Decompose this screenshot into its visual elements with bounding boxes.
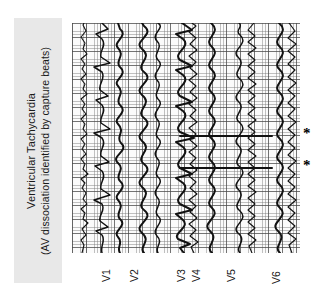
lead-label-v1: V1 <box>100 269 112 282</box>
lead-label-v2: V2 <box>128 269 140 282</box>
lead-label-v4: V4 <box>190 269 202 282</box>
trace-lead-v1-qrs <box>94 23 110 253</box>
trace-lead-v5-overlay <box>248 23 256 253</box>
caption-text-block: Ventricular Tachycardia (AV dissociation… <box>14 18 62 283</box>
trace-lead-v2 <box>139 23 147 253</box>
ecg-figure: Ventricular Tachycardia (AV dissociation… <box>0 0 328 300</box>
ecg-paper <box>72 23 300 253</box>
capture-beat-asterisk-1: * <box>303 126 311 141</box>
trace-lead-v1-main <box>116 23 123 253</box>
caption-title: Ventricular Tachycardia <box>25 93 37 209</box>
caption-subtitle: (AV dissociation identified by capture b… <box>39 47 51 255</box>
lead-label-v6: V6 <box>270 271 282 284</box>
lead-label-v5: V5 <box>225 269 237 282</box>
trace-lead-v2-secondary <box>155 23 160 253</box>
trace-lead-v6 <box>275 23 283 253</box>
trace-lead-v1 <box>81 23 88 253</box>
ecg-waveform-traces <box>72 23 300 253</box>
capture-beat-asterisk-2: * <box>303 158 311 173</box>
trace-lead-v4 <box>207 23 215 253</box>
lead-label-v3: V3 <box>175 269 187 282</box>
caption-banner: Ventricular Tachycardia (AV dissociation… <box>14 18 62 283</box>
trace-lead-v5 <box>236 23 243 253</box>
trace-lead-v6-overlay <box>288 23 296 253</box>
